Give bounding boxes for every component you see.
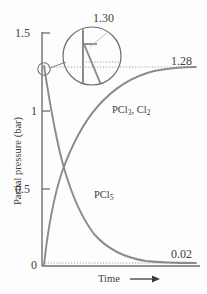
series-label-cl2-text: , Cl	[132, 104, 147, 115]
y-axis-ticks	[42, 33, 50, 189]
y-tick-label-1: 1	[31, 105, 37, 117]
chart-figure: 1.5 1 0.5 0 1.30 1.28 0.02 PCl3, Cl2 PCl…	[0, 0, 207, 294]
annotation-0_02: 0.02	[171, 248, 192, 260]
magnifier-lens-circle	[63, 27, 121, 85]
y-axis-title: Partial pressure (bar)	[13, 117, 24, 205]
y-tick-label-0: 0	[31, 259, 37, 271]
magnifier-callout	[38, 22, 124, 92]
annotation-1_30: 1.30	[93, 12, 114, 24]
curve-pcl5	[44, 66, 196, 263]
series-label-pcl5: PCl5	[94, 190, 114, 202]
time-arrow-icon	[130, 275, 160, 282]
x-axis-title: Time	[98, 274, 120, 285]
magnified-label-leader	[90, 30, 110, 47]
annotation-1_28: 1.28	[171, 55, 192, 67]
series-label-pcl5-subscript: 5	[110, 193, 114, 202]
series-label-cl2-subscript: 2	[147, 108, 151, 117]
y-tick-label-1_5: 1.5	[15, 27, 30, 39]
curve-pcl3-cl2	[44, 67, 196, 265]
series-label-pcl3-cl2: PCl3, Cl2	[112, 105, 151, 117]
series-label-pcl3-cl2-text: PCl	[112, 104, 128, 115]
series-label-pcl5-text: PCl	[94, 189, 110, 200]
